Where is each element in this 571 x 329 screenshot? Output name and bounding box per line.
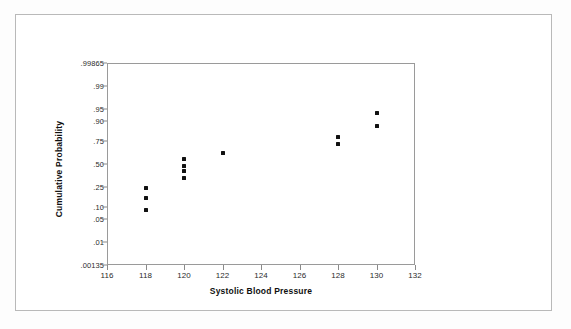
y-axis-tick-mark xyxy=(102,186,107,187)
x-axis-tick-label: 124 xyxy=(254,271,267,280)
x-axis-tick-label: 116 xyxy=(101,271,114,280)
figure-canvas: .00135.01.05.10.25.50.75.90.95.99.99865 … xyxy=(0,0,571,329)
y-axis-tick-mark xyxy=(102,120,107,121)
y-axis-tick-mark xyxy=(102,164,107,165)
y-axis-tick-labels: .00135.01.05.10.25.50.75.90.95.99.99865 xyxy=(62,0,104,329)
x-axis-tick-mark xyxy=(107,265,108,270)
plot-wrapper: .00135.01.05.10.25.50.75.90.95.99.99865 … xyxy=(0,0,571,329)
data-point xyxy=(336,135,340,139)
x-axis-tick-mark xyxy=(184,265,185,270)
x-axis-tick-label: 118 xyxy=(139,271,152,280)
x-axis-tick-label: 126 xyxy=(293,271,306,280)
data-point xyxy=(144,208,148,212)
x-axis-tick-label: 132 xyxy=(408,271,421,280)
data-point xyxy=(182,157,186,161)
y-axis-tick-mark xyxy=(102,63,107,64)
y-axis-tick-mark xyxy=(102,85,107,86)
x-axis-tick-mark xyxy=(223,265,224,270)
x-axis-tick-mark xyxy=(377,265,378,270)
x-axis-tick-mark xyxy=(146,265,147,270)
data-point xyxy=(336,142,340,146)
y-axis-tick-mark xyxy=(102,108,107,109)
y-axis-tick-label: .99865 xyxy=(80,59,104,68)
data-point xyxy=(182,176,186,180)
x-axis-title: Systolic Blood Pressure xyxy=(107,286,415,296)
x-axis-tick-label: 120 xyxy=(177,271,190,280)
x-axis-tick-mark xyxy=(338,265,339,270)
x-axis-tick-label: 130 xyxy=(370,271,383,280)
x-axis-tick-label: 122 xyxy=(216,271,229,280)
x-axis-tick-mark xyxy=(415,265,416,270)
data-point xyxy=(375,111,379,115)
y-axis-tick-mark xyxy=(102,141,107,142)
y-axis-title: Cumulative Probability xyxy=(54,69,64,269)
data-point xyxy=(144,186,148,190)
plot-area xyxy=(107,63,415,265)
data-point xyxy=(375,124,379,128)
data-point xyxy=(182,164,186,168)
x-axis-tick-label: 128 xyxy=(331,271,344,280)
x-axis-tick-mark xyxy=(261,265,262,270)
y-axis-tick-label: .00135 xyxy=(80,261,104,270)
data-point xyxy=(144,196,148,200)
data-point xyxy=(182,169,186,173)
x-axis-tick-mark xyxy=(300,265,301,270)
y-axis-tick-mark xyxy=(102,242,107,243)
y-axis-tick-mark xyxy=(102,207,107,208)
data-point xyxy=(221,151,225,155)
y-axis-tick-mark xyxy=(102,219,107,220)
